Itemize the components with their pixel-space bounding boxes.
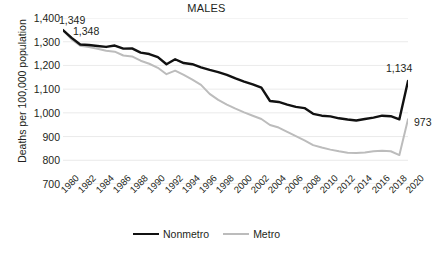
y-axis-tick-label: 1,400 — [18, 13, 60, 24]
chart-svg — [63, 18, 408, 184]
legend-label: Nonmetro — [163, 228, 209, 240]
y-axis-tick-label: 800 — [18, 155, 60, 166]
series-line-nonmetro — [63, 30, 408, 120]
chart-title: MALES — [0, 2, 413, 14]
x-axis-ticks: 1980198219841986198819901992199419961998… — [63, 186, 408, 226]
y-axis-tick-label: 1,200 — [18, 60, 60, 71]
chart-legend: NonmetroMetro — [0, 228, 413, 240]
y-axis-tick-label: 1,300 — [18, 36, 60, 47]
legend-label: Metro — [253, 228, 280, 240]
plot-area: 1,3491,3481,134973 — [63, 18, 408, 184]
y-axis-tick-label: 1,100 — [18, 84, 60, 95]
legend-item-metro[interactable]: Metro — [223, 228, 280, 240]
legend-swatch-icon — [133, 233, 159, 235]
y-axis-ticks: 1,4001,3001,2001,1001,000900800700 — [18, 0, 60, 253]
y-axis-tick-label: 1,000 — [18, 108, 60, 119]
data-label: 1,134 — [386, 63, 412, 74]
y-axis-tick-label: 900 — [18, 131, 60, 142]
data-label: 1,349 — [59, 15, 85, 26]
data-label: 973 — [414, 117, 432, 128]
data-label: 1,348 — [73, 26, 99, 37]
legend-item-nonmetro[interactable]: Nonmetro — [133, 228, 209, 240]
y-axis-tick-label: 700 — [18, 179, 60, 190]
legend-swatch-icon — [223, 233, 249, 235]
